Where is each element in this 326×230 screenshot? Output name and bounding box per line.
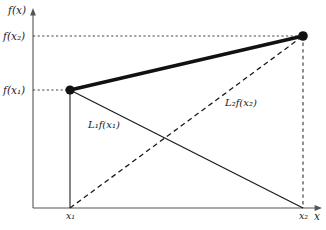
guide-lines-group xyxy=(33,36,303,208)
point-x1-marker xyxy=(65,85,74,94)
y-tick-label-upper: f(x₂) xyxy=(3,31,25,42)
l1-fx1-line xyxy=(70,90,303,208)
x-axis-label: x xyxy=(314,211,320,222)
curve-label-l2: L₂f(x₂) xyxy=(225,98,257,108)
linear-interpolation-diagram: f(x) x f(x₂) f(x₁) x₁ x₂ L₁f(x₁) L₂f(x₂) xyxy=(0,0,326,230)
chord-line xyxy=(70,36,303,90)
x-tick-label-left: x₁ xyxy=(66,211,75,221)
axes-group xyxy=(30,8,322,211)
point-x2-marker xyxy=(298,31,308,41)
y-axis-label: f(x) xyxy=(8,5,26,16)
y-tick-label-lower: f(x₁) xyxy=(3,85,25,96)
diagram-canvas xyxy=(0,0,326,230)
curve-label-l1: L₁f(x₁) xyxy=(88,120,120,130)
y-axis-arrow-icon xyxy=(30,8,36,15)
x-tick-label-right: x₂ xyxy=(299,211,308,221)
